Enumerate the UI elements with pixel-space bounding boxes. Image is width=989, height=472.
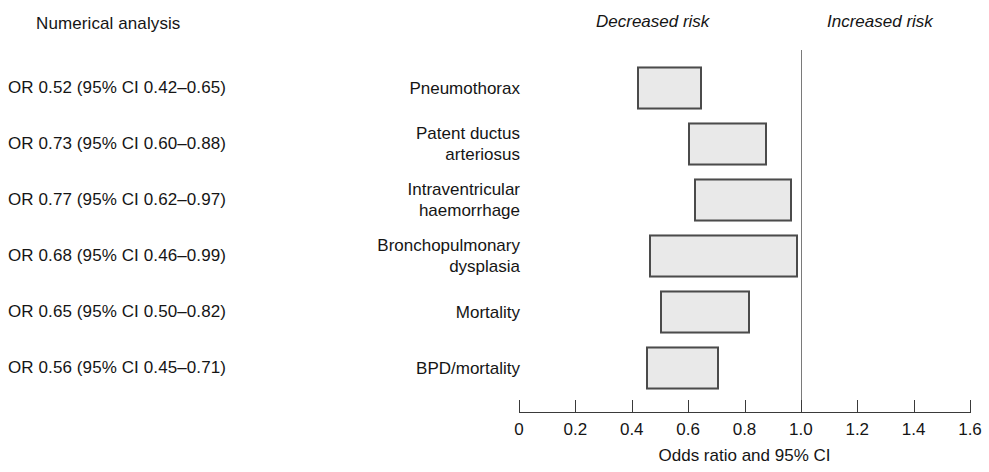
confidence-interval-bar xyxy=(660,291,750,334)
x-axis-tick-label: 0 xyxy=(514,420,523,440)
or-estimate-text: OR 0.68 (95% CI 0.46–0.99) xyxy=(8,246,226,266)
x-axis-tick-label: 1.4 xyxy=(902,420,926,440)
outcome-label: Pneumothorax xyxy=(330,78,520,99)
x-axis-tick-label: 0.6 xyxy=(676,420,700,440)
x-axis-title: Odds ratio and 95% CI xyxy=(519,446,970,466)
or-estimate-text: OR 0.52 (95% CI 0.42–0.65) xyxy=(8,78,226,98)
x-axis-tick xyxy=(857,400,858,412)
outcome-label-line: dysplasia xyxy=(330,256,520,277)
or-estimate-text: OR 0.56 (95% CI 0.45–0.71) xyxy=(8,358,226,378)
reference-line-at-one xyxy=(801,50,802,412)
x-axis-line xyxy=(519,412,971,413)
increased-risk-label: Increased risk xyxy=(827,12,933,32)
x-axis-tick xyxy=(801,400,802,412)
x-axis-tick-label: 1.0 xyxy=(789,420,813,440)
outcome-label-line: haemorrhage xyxy=(330,200,520,221)
x-axis-tick xyxy=(575,400,576,412)
or-estimate-text: OR 0.65 (95% CI 0.50–0.82) xyxy=(8,302,226,322)
confidence-interval-bar xyxy=(646,347,719,390)
forest-row: OR 0.73 (95% CI 0.60–0.88)Patent ductusa… xyxy=(0,116,989,172)
outcome-label: Intraventricularhaemorrhage xyxy=(330,179,520,221)
outcome-label-line: Bronchopulmonary xyxy=(330,235,520,256)
outcome-label-line: Mortality xyxy=(330,302,520,323)
x-axis-tick xyxy=(745,400,746,412)
outcome-label: Mortality xyxy=(330,302,520,323)
outcome-label-line: Patent ductus xyxy=(330,123,520,144)
x-axis-tick xyxy=(970,400,971,412)
outcome-label-line: Pneumothorax xyxy=(330,78,520,99)
outcome-label: Patent ductusarteriosus xyxy=(330,123,520,165)
outcome-label-line: arteriosus xyxy=(330,144,520,165)
decreased-risk-label: Decreased risk xyxy=(596,12,709,32)
or-estimate-text: OR 0.77 (95% CI 0.62–0.97) xyxy=(8,190,226,210)
forest-row: OR 0.65 (95% CI 0.50–0.82)Mortality xyxy=(0,284,989,340)
x-axis-tick-label: 1.6 xyxy=(958,420,982,440)
forest-row: OR 0.68 (95% CI 0.46–0.99)Bronchopulmona… xyxy=(0,228,989,284)
x-axis-tick-label: 0.8 xyxy=(733,420,757,440)
x-axis-tick-label: 0.2 xyxy=(564,420,588,440)
outcome-label: BPD/mortality xyxy=(330,358,520,379)
x-axis-tick xyxy=(688,400,689,412)
confidence-interval-bar xyxy=(688,123,767,166)
forest-plot-figure: Numerical analysis Decreased risk Increa… xyxy=(0,0,989,472)
confidence-interval-bar xyxy=(637,67,702,110)
x-axis-tick xyxy=(519,400,520,412)
outcome-label-line: BPD/mortality xyxy=(330,358,520,379)
forest-row: OR 0.77 (95% CI 0.62–0.97)Intraventricul… xyxy=(0,172,989,228)
x-axis-tick-label: 1.2 xyxy=(845,420,869,440)
x-axis-tick xyxy=(914,400,915,412)
outcome-label: Bronchopulmonarydysplasia xyxy=(330,235,520,277)
numerical-analysis-heading: Numerical analysis xyxy=(36,14,180,34)
confidence-interval-bar xyxy=(694,179,793,222)
or-estimate-text: OR 0.73 (95% CI 0.60–0.88) xyxy=(8,134,226,154)
x-axis-tick xyxy=(632,400,633,412)
x-axis-tick-label: 0.4 xyxy=(620,420,644,440)
forest-row: OR 0.52 (95% CI 0.42–0.65)Pneumothorax xyxy=(0,60,989,116)
outcome-label-line: Intraventricular xyxy=(330,179,520,200)
forest-row: OR 0.56 (95% CI 0.45–0.71)BPD/mortality xyxy=(0,340,989,396)
confidence-interval-bar xyxy=(649,235,798,278)
